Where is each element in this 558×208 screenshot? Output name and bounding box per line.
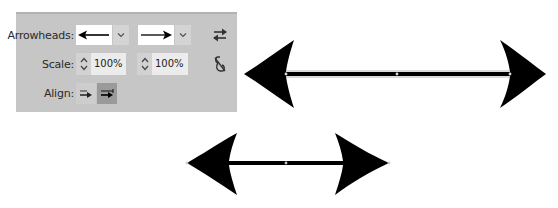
- arrow-left-icon: [76, 25, 112, 45]
- double-arrow-path-large[interactable]: [242, 38, 548, 110]
- arrow-right-icon: [138, 25, 174, 45]
- anchor-point[interactable]: [285, 162, 288, 165]
- align-label: Align:: [16, 87, 74, 100]
- end-arrowhead-dropdown-button[interactable]: [175, 25, 191, 45]
- align-extend-beyond-path-button[interactable]: [76, 83, 96, 104]
- stepper-up-down-icon: [140, 56, 150, 72]
- chevron-down-icon: [179, 32, 187, 38]
- arrow-at-end-icon: [100, 88, 114, 100]
- anchor-point[interactable]: [186, 162, 189, 165]
- arrowheads-label: Arrowheads:: [0, 29, 74, 42]
- link-scale-button[interactable]: [210, 54, 230, 74]
- arrow-extend-icon: [79, 88, 93, 100]
- double-arrow-path-small[interactable]: [185, 131, 391, 197]
- unlink-icon: [213, 55, 227, 73]
- start-arrowhead-dropdown-button[interactable]: [113, 25, 129, 45]
- start-scale-stepper[interactable]: [76, 53, 91, 75]
- stepper-up-down-icon: [79, 56, 89, 72]
- start-arrowhead-select[interactable]: [76, 25, 112, 45]
- swap-arrows-icon: [212, 28, 228, 42]
- swap-arrowheads-button[interactable]: [210, 26, 230, 44]
- anchor-point[interactable]: [396, 73, 399, 76]
- arrowhead-settings-panel: Arrowheads: Scale:: [16, 12, 237, 112]
- end-arrowhead-select[interactable]: [138, 25, 174, 45]
- align-at-path-end-button[interactable]: [97, 83, 117, 104]
- start-scale-input[interactable]: [91, 53, 126, 75]
- anchor-point[interactable]: [388, 162, 391, 165]
- scale-label: Scale:: [16, 58, 74, 71]
- anchor-point[interactable]: [509, 73, 512, 76]
- anchor-point[interactable]: [285, 73, 288, 76]
- end-scale-input[interactable]: [152, 53, 188, 75]
- end-scale-stepper[interactable]: [137, 53, 152, 75]
- chevron-down-icon: [117, 32, 125, 38]
